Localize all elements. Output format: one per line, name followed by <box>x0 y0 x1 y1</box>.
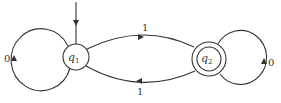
state-name: q <box>201 52 208 65</box>
state-name: q <box>68 51 75 64</box>
transition-q1-q2: 1 <box>87 22 194 49</box>
transition-q2-q1: 1 <box>86 66 195 97</box>
transition-label: 1 <box>137 86 143 97</box>
transition-label: 0 <box>4 53 10 64</box>
state-subscript: 1 <box>75 57 79 65</box>
state-q1: q1 <box>63 44 89 70</box>
transition-label: 0 <box>268 57 274 68</box>
transition-label: 1 <box>142 22 148 33</box>
start-arrow <box>73 2 79 44</box>
state-q2: q2 <box>192 42 226 76</box>
state-subscript: 2 <box>208 58 212 66</box>
automaton-diagram: 0 1 1 0 q1 q2 <box>0 0 281 103</box>
transition-q1-q1: 0 <box>4 29 70 91</box>
